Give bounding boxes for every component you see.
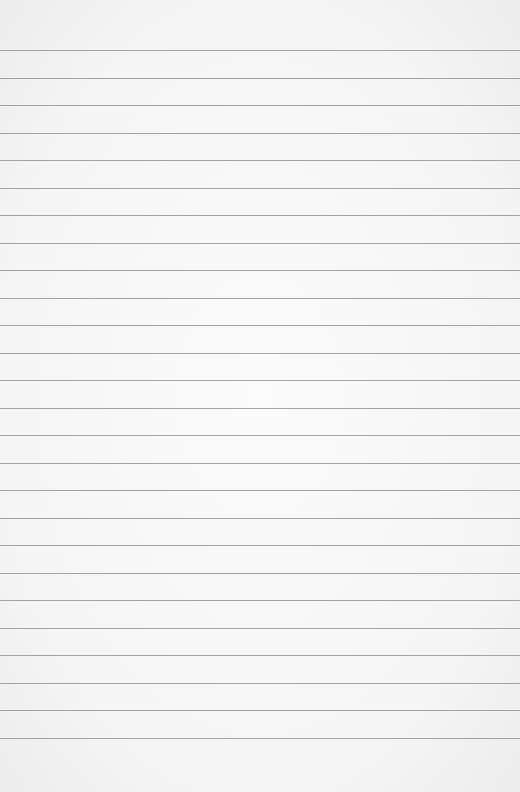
ruled-line <box>0 188 520 189</box>
ruled-line <box>0 738 520 739</box>
ruled-line <box>0 463 520 464</box>
ruled-line <box>0 655 520 656</box>
ruled-line <box>0 628 520 629</box>
lined-paper <box>0 0 520 792</box>
ruled-line <box>0 600 520 601</box>
ruled-line <box>0 353 520 354</box>
ruled-line <box>0 545 520 546</box>
ruled-line <box>0 243 520 244</box>
ruled-line <box>0 518 520 519</box>
ruled-line <box>0 490 520 491</box>
ruled-line <box>0 408 520 409</box>
ruled-line <box>0 298 520 299</box>
ruled-line <box>0 133 520 134</box>
ruled-line <box>0 78 520 79</box>
ruled-line <box>0 325 520 326</box>
ruled-line <box>0 573 520 574</box>
ruled-line <box>0 215 520 216</box>
ruled-line <box>0 435 520 436</box>
ruled-line <box>0 380 520 381</box>
ruled-line <box>0 50 520 51</box>
ruled-line <box>0 710 520 711</box>
ruled-line <box>0 683 520 684</box>
ruled-line <box>0 105 520 106</box>
ruled-line <box>0 270 520 271</box>
ruled-line <box>0 160 520 161</box>
